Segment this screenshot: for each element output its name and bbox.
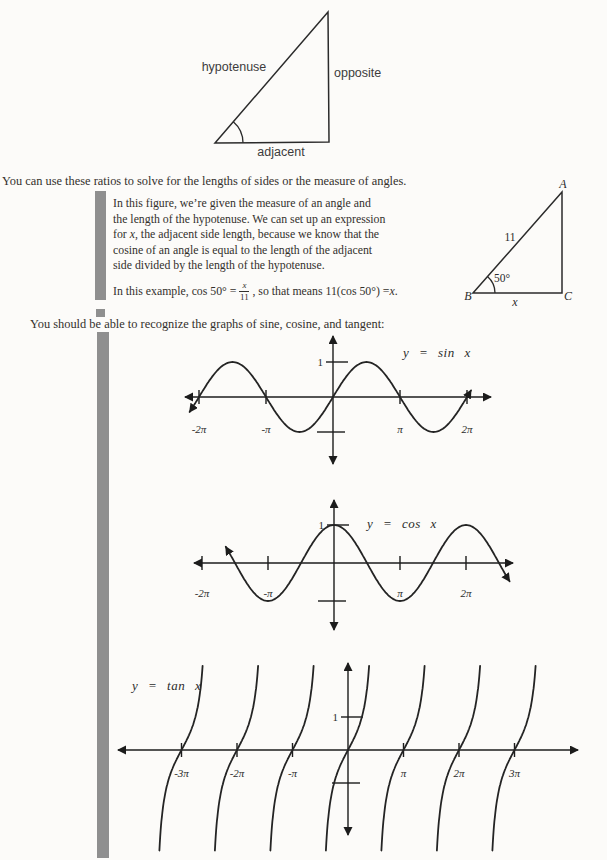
x-tick-label: π	[397, 587, 403, 599]
tangent-equation-label: y = tan x	[130, 678, 201, 693]
text-segment: for	[113, 227, 130, 241]
angle-label: 50°	[494, 272, 511, 284]
adjacent-label: adjacent	[257, 145, 305, 159]
x-tick-label: -2π	[195, 587, 210, 599]
margin-bar-top	[95, 191, 106, 300]
paragraph-line: for x, the adjacent side length, because…	[113, 227, 398, 243]
tangent-graph: y = tan x -3π-2π-ππ2π3π1	[110, 655, 595, 860]
y-tick-one-label: 1	[318, 356, 324, 368]
opposite-label: opposite	[334, 66, 381, 80]
x-tick-label: -2π	[192, 423, 207, 435]
cosine-graph: y = cos x -2π-ππ2π1	[160, 495, 520, 635]
x-tick-label: -π	[263, 587, 273, 599]
intro-sentence: You can use these ratios to solve for th…	[2, 174, 406, 189]
fraction-x-over-11: x 11	[239, 281, 249, 302]
vertex-a-label: A	[558, 177, 567, 191]
x-tick-label: 2π	[460, 587, 472, 599]
fraction-denominator: 11	[240, 292, 249, 302]
triangle-outline	[473, 192, 562, 293]
x-tick-label: π	[397, 423, 403, 435]
x-tick-label: 2π	[461, 423, 473, 435]
text-segment: .	[395, 284, 398, 300]
recognize-sentence: You should be able to recognize the grap…	[30, 317, 385, 332]
vertex-c-label: C	[564, 289, 573, 303]
tan-branch	[159, 666, 202, 851]
margin-bar-bottom	[97, 332, 109, 858]
example-paragraph: In this figure, we’re given the measure …	[113, 196, 398, 303]
tan-branch	[492, 666, 535, 851]
paragraph-line: In this figure, we’re given the measure …	[113, 196, 398, 212]
textbook-page: hypotenuse opposite adjacent You can use…	[0, 0, 607, 860]
cosine-equation-label: y = cos x	[365, 516, 437, 531]
triangle-outline	[215, 12, 329, 143]
ratio-triangle-figure: hypotenuse opposite adjacent	[150, 0, 390, 165]
example-equation-line: In this example, cos 50° = x 11 , so tha…	[113, 281, 398, 303]
hypotenuse-label: hypotenuse	[202, 60, 267, 74]
tan-branch	[270, 666, 313, 851]
tan-branch	[381, 666, 424, 851]
angle-arc	[233, 122, 243, 143]
x-tick-label: -π	[261, 423, 271, 435]
fraction-numerator: x	[239, 281, 249, 292]
paragraph-line: side divided by the length of the hypote…	[113, 258, 398, 274]
y-tick-one-label: 1	[333, 711, 339, 723]
base-x-label: x	[511, 295, 518, 309]
text-segment: , so that means 11(cos 50°) =	[252, 284, 389, 300]
sine-graph: y = sin x -2π-ππ2π1	[155, 333, 505, 468]
x-tick-label: -π	[288, 767, 298, 779]
hypotenuse-length-label: 11	[504, 231, 515, 243]
tan-branch	[215, 666, 258, 851]
paragraph-line: the length of the hypotenuse. We can set…	[113, 212, 398, 228]
x-tick-label: -3π	[174, 767, 189, 779]
x-tick-label: 3π	[508, 767, 521, 779]
vertex-b-label: B	[464, 289, 472, 303]
text-segment: In this example, cos 50° =	[113, 284, 236, 300]
x-tick-label: -2π	[230, 767, 245, 779]
text-segment: , the adjacent side length, because we k…	[135, 227, 379, 241]
x-tick-label: 2π	[453, 767, 465, 779]
sine-equation-label: y = sin x	[401, 345, 471, 360]
example-triangle-figure: A B C 11 50° x	[460, 175, 607, 315]
tan-branch	[437, 666, 480, 851]
x-tick-label: π	[401, 767, 407, 779]
paragraph-line: cosine of an angle is equal to the lengt…	[113, 243, 398, 259]
margin-bar-fragment	[96, 309, 105, 317]
